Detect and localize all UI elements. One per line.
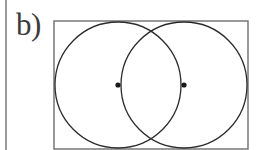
bounding-rectangle xyxy=(54,21,248,149)
left-centre-dot xyxy=(115,82,120,87)
right-centre-dot xyxy=(181,82,186,87)
figure-panel-b: b) xyxy=(0,0,261,150)
venn-diagram xyxy=(0,0,261,150)
